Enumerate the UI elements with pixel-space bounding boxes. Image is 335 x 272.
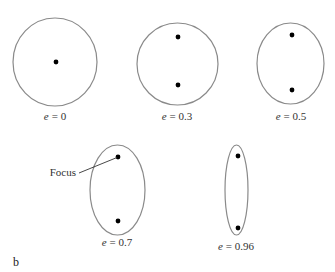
- orbit-e-0: e= 0: [13, 18, 97, 122]
- orbit-eccentricity-diagram: e= 0 e= 0.3 e= 0.5 e= 0.7 Focus e= 0.96 …: [0, 0, 335, 272]
- eccentricity-value: = 0.96: [226, 240, 255, 252]
- eccentricity-symbol: e: [276, 110, 281, 122]
- eccentricity-label-e-0: e= 0: [44, 110, 67, 122]
- orbit-e-0-5: e= 0.5: [257, 23, 324, 122]
- eccentricity-value: = 0.3: [170, 110, 193, 122]
- eccentricity-value: = 0: [52, 110, 67, 122]
- focus-dot-center: [54, 60, 59, 65]
- eccentricity-symbol: e: [162, 110, 167, 122]
- eccentricity-label-e-0-7: e= 0.7: [102, 236, 133, 248]
- focus-dot-upper: [116, 155, 121, 160]
- eccentricity-symbol: e: [218, 240, 223, 252]
- eccentricity-label-e-0-96: e= 0.96: [218, 240, 255, 252]
- orbit-e-0-7: e= 0.7: [90, 145, 145, 248]
- focus-label: Focus: [50, 166, 76, 178]
- orbit-e-0-96: e= 0.96: [218, 145, 255, 252]
- focus-dot-upper: [290, 33, 295, 38]
- orbit-ellipse-e-0-96: [225, 145, 248, 235]
- eccentricity-label-e-0-5: e= 0.5: [276, 110, 307, 122]
- eccentricity-label-e-0-3: e= 0.3: [162, 110, 193, 122]
- eccentricity-value: = 0.7: [110, 236, 133, 248]
- focus-dot-lower: [176, 83, 181, 88]
- focus-dot-lower: [290, 88, 295, 93]
- eccentricity-symbol: e: [44, 110, 49, 122]
- focus-leader-line: [79, 158, 117, 174]
- eccentricity-symbol: e: [102, 236, 107, 248]
- eccentricity-value: = 0.5: [284, 110, 307, 122]
- panel-label: b: [13, 255, 19, 269]
- focus-dot-upper: [176, 35, 181, 40]
- focus-dot-lower: [236, 226, 241, 231]
- focus-dot-lower: [116, 219, 121, 224]
- focus-callout: Focus: [50, 158, 117, 179]
- focus-dot-upper: [236, 154, 241, 159]
- orbit-e-0-3: e= 0.3: [137, 23, 218, 122]
